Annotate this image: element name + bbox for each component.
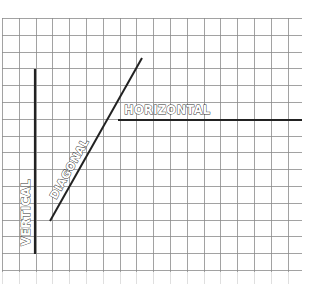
diagonal-line <box>50 58 142 221</box>
grid <box>2 18 302 284</box>
vertical-label: VERTICAL <box>19 179 33 246</box>
horizontal-label: HORIZONTAL <box>124 103 211 117</box>
line-types-diagram: VERTICAL DIAGONAL HORIZONTAL <box>0 0 310 292</box>
